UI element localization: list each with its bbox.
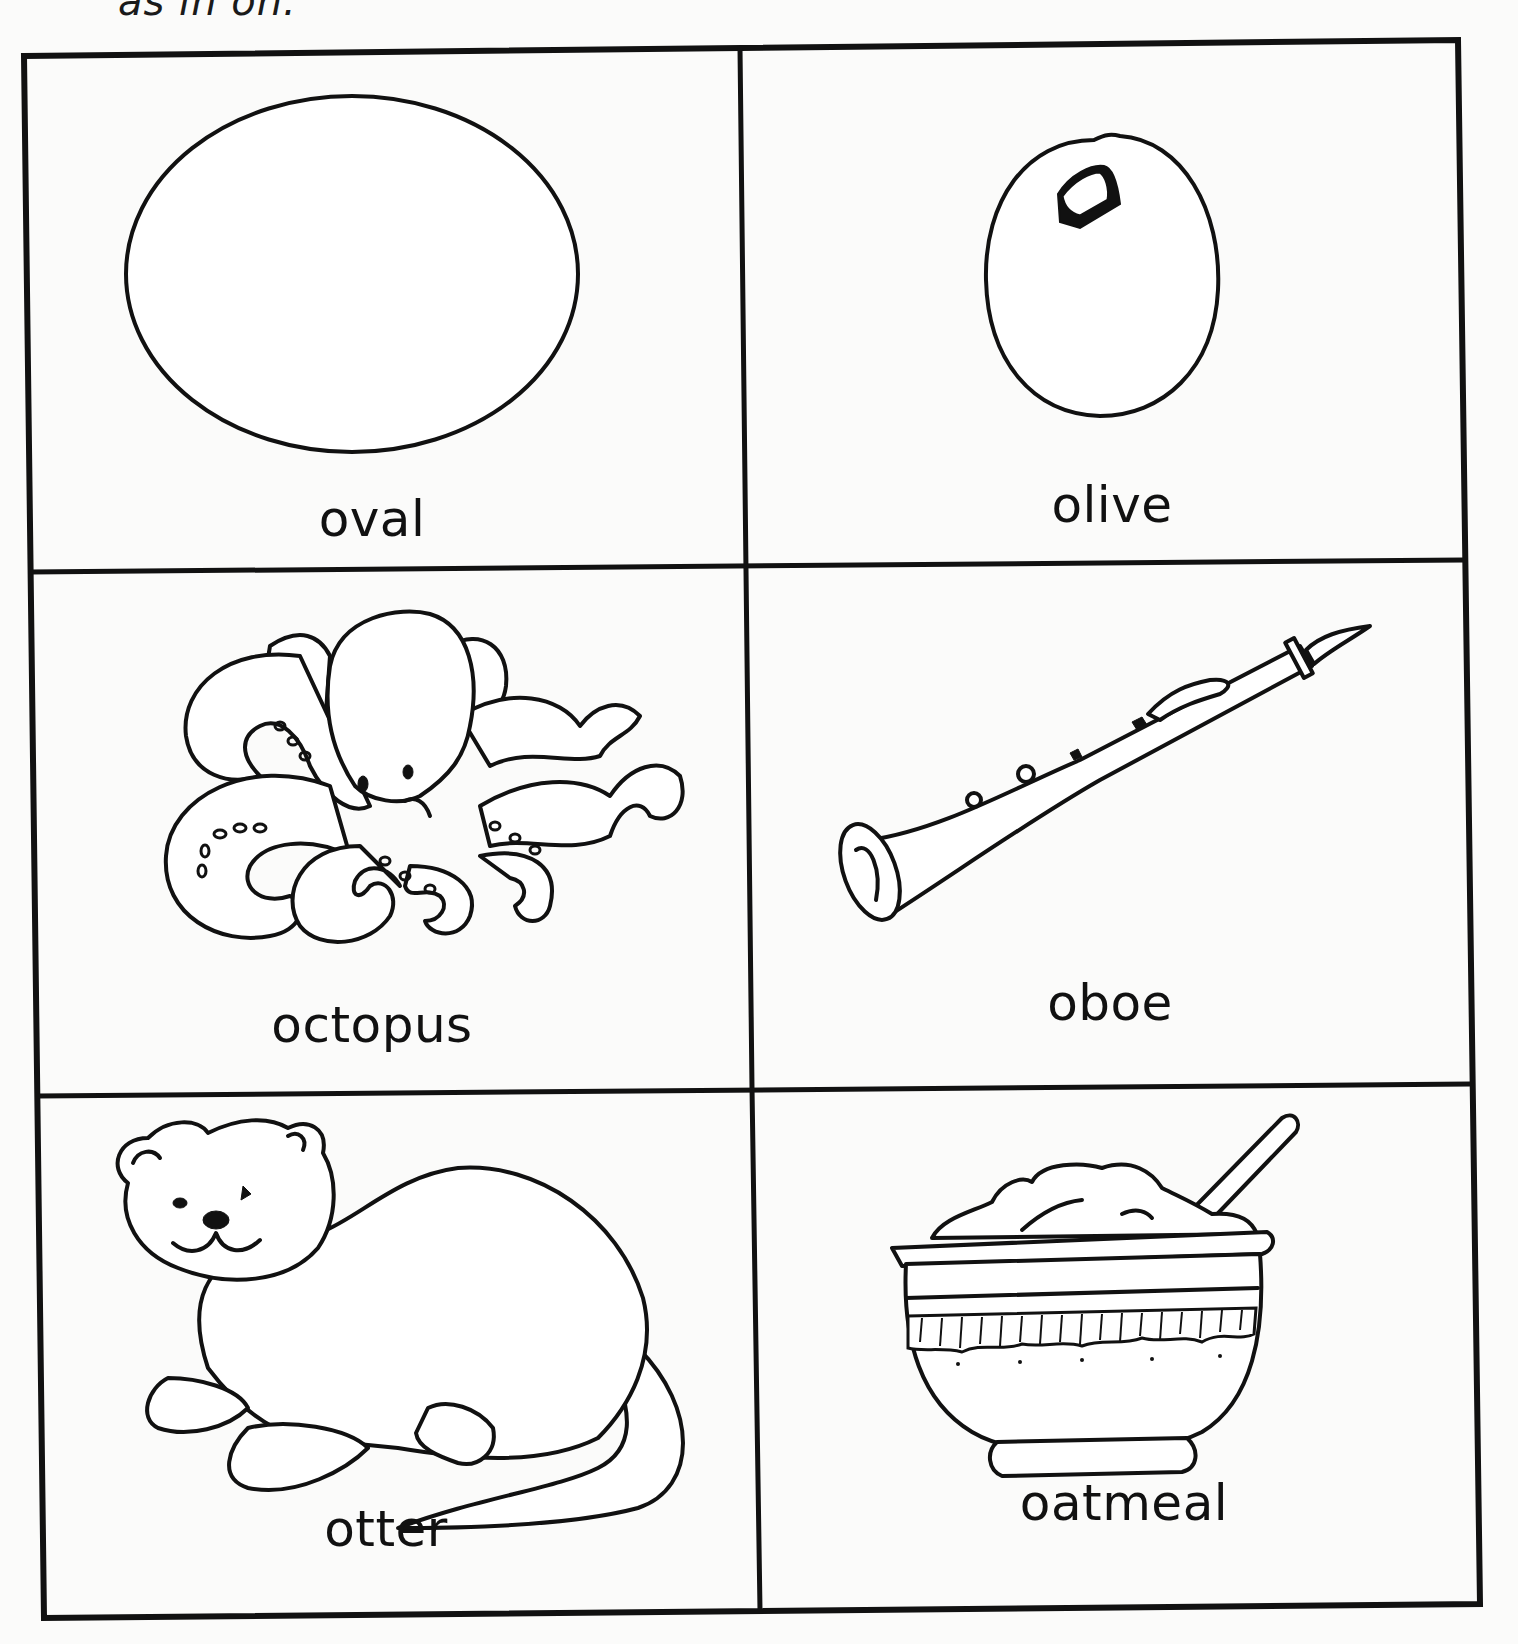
- grid-column-divider: [740, 48, 760, 1610]
- card-oboe-picture: [830, 610, 1390, 940]
- card-label-oatmeal: oatmeal: [1020, 1474, 1228, 1532]
- octopus-icon: [150, 606, 690, 956]
- card-oval-picture: [122, 92, 582, 462]
- oatmeal-bowl-icon: [882, 1102, 1302, 1492]
- card-label-oval: oval: [319, 490, 426, 548]
- card-olive-picture: [982, 130, 1222, 420]
- card-label-oboe: oboe: [1047, 974, 1173, 1032]
- card-oatmeal-picture: [882, 1102, 1302, 1492]
- card-label-olive: olive: [1051, 476, 1172, 534]
- oboe-icon: [830, 610, 1390, 940]
- oval-shape-icon: [122, 92, 582, 462]
- card-octopus-picture: [150, 606, 690, 956]
- card-label-octopus: octopus: [271, 996, 472, 1054]
- olive-icon: [982, 130, 1222, 420]
- card-label-otter: otter: [324, 1500, 448, 1558]
- otter-icon: [98, 1108, 708, 1528]
- card-otter-picture: [98, 1108, 708, 1528]
